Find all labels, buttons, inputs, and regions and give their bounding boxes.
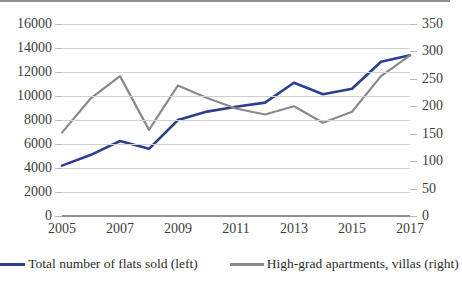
left-axis-tick-label: 4000 bbox=[0, 161, 52, 175]
right-axis-tick-label: 250 bbox=[422, 72, 462, 86]
left-axis-tick-mark bbox=[55, 72, 62, 73]
legend-label: Total number of flats sold (left) bbox=[28, 257, 198, 271]
chart-legend: Total number of flats sold (left)High-gr… bbox=[0, 252, 450, 276]
x-axis-tick-label: 2013 bbox=[270, 222, 318, 236]
gridline bbox=[62, 120, 410, 121]
gridline bbox=[62, 96, 410, 97]
right-axis-tick-label: 100 bbox=[422, 154, 462, 168]
left-axis-tick-label: 8000 bbox=[0, 113, 52, 127]
legend-color-swatch bbox=[0, 263, 25, 266]
right-axis-tick-mark bbox=[410, 51, 417, 52]
left-axis-tick-label: 12000 bbox=[0, 65, 52, 79]
right-axis-tick-mark bbox=[410, 161, 417, 162]
x-axis-tick-label: 2007 bbox=[96, 222, 144, 236]
left-axis-tick-mark bbox=[55, 24, 62, 25]
left-axis-tick-mark bbox=[55, 216, 62, 217]
legend-color-swatch bbox=[230, 263, 264, 266]
right-axis-tick-label: 350 bbox=[422, 17, 462, 31]
right-axis-tick-label: 0 bbox=[422, 209, 462, 223]
right-axis-tick-mark bbox=[410, 106, 417, 107]
right-axis-tick-mark bbox=[410, 79, 417, 80]
x-axis-tick-label: 2015 bbox=[328, 222, 376, 236]
x-axis-baseline bbox=[62, 215, 410, 217]
left-axis-tick-mark bbox=[55, 48, 62, 49]
x-axis-tick-label: 2017 bbox=[386, 222, 434, 236]
left-axis-tick-label: 6000 bbox=[0, 137, 52, 151]
right-axis-tick-mark bbox=[410, 189, 417, 190]
legend-item[interactable]: High-grad apartments, villas (right) bbox=[230, 257, 459, 271]
right-axis-tick-label: 300 bbox=[422, 44, 462, 58]
legend-label: High-grad apartments, villas (right) bbox=[267, 257, 459, 271]
gridline bbox=[62, 168, 410, 169]
gridline bbox=[62, 192, 410, 193]
gridline bbox=[62, 24, 410, 25]
left-axis-tick-mark bbox=[55, 120, 62, 121]
gridline bbox=[62, 144, 410, 145]
top-border-rule bbox=[0, 0, 450, 2]
left-axis-tick-mark bbox=[55, 144, 62, 145]
x-axis-tick-label: 2011 bbox=[212, 222, 260, 236]
left-axis-tick-mark bbox=[55, 192, 62, 193]
x-axis-tick-label: 2009 bbox=[154, 222, 202, 236]
right-axis-tick-mark bbox=[410, 24, 417, 25]
legend-item[interactable]: Total number of flats sold (left) bbox=[0, 257, 198, 271]
left-axis-tick-mark bbox=[55, 96, 62, 97]
left-axis-tick-mark bbox=[55, 168, 62, 169]
x-axis-tick-label: 2005 bbox=[38, 222, 86, 236]
left-axis-tick-label: 10000 bbox=[0, 89, 52, 103]
right-axis-tick-label: 200 bbox=[422, 99, 462, 113]
right-axis-tick-label: 50 bbox=[422, 182, 462, 196]
right-axis-tick-label: 150 bbox=[422, 127, 462, 141]
series-line bbox=[62, 55, 410, 132]
gridline bbox=[62, 48, 410, 49]
left-axis-tick-label: 14000 bbox=[0, 41, 52, 55]
gridline bbox=[62, 72, 410, 73]
right-axis-tick-mark bbox=[410, 216, 417, 217]
left-axis-tick-label: 2000 bbox=[0, 185, 52, 199]
left-axis-tick-label: 0 bbox=[0, 209, 52, 223]
right-axis-tick-mark bbox=[410, 134, 417, 135]
left-axis-tick-label: 16000 bbox=[0, 17, 52, 31]
